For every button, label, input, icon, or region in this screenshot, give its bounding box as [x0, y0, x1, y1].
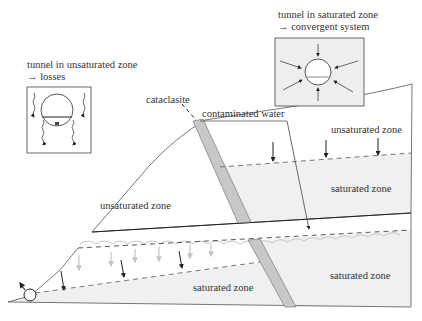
water-table-arrow [179, 251, 182, 268]
inset-unsaturated-tunnel: tunnel in unsaturated zone → losses [27, 59, 138, 153]
lower-rock-block: saturated zone saturated zone [8, 213, 411, 307]
inset-saturated-tunnel: tunnel in saturated zone → convergent sy… [275, 9, 378, 106]
label-saturated-zone-upper-right: saturated zone [331, 183, 392, 194]
label-unsaturated-zone-upper-left: unsaturated zone [100, 200, 171, 211]
inset-unsaturated-drain [55, 122, 59, 125]
inset-saturated-subtitle: → convergent system [278, 21, 369, 32]
water-table-arrow [121, 260, 124, 277]
label-cataclasite: cataclasite [146, 94, 190, 105]
outflow-arrow [20, 283, 25, 290]
label-saturated-zone-lower-right: saturated zone [330, 270, 391, 281]
label-saturated-zone-lower-left: saturated zone [193, 282, 254, 293]
cataclasite-leader-line [182, 104, 196, 120]
inset-saturated-tunnel-circle [305, 59, 331, 85]
label-contaminated-water: contaminated water [202, 108, 285, 119]
tunnel-portal-circle [24, 289, 36, 301]
inset-unsaturated-subtitle: → losses [27, 71, 65, 82]
label-unsaturated-zone-upper-right: unsaturated zone [331, 124, 402, 135]
inset-unsaturated-tunnel-circle [41, 94, 73, 126]
tunnel-hydrogeology-diagram: unsaturated zone unsaturated zone satura… [0, 0, 422, 321]
water-table-arrow [61, 271, 64, 290]
inset-saturated-title: tunnel in saturated zone [278, 9, 378, 20]
inset-unsaturated-title: tunnel in unsaturated zone [27, 59, 138, 70]
